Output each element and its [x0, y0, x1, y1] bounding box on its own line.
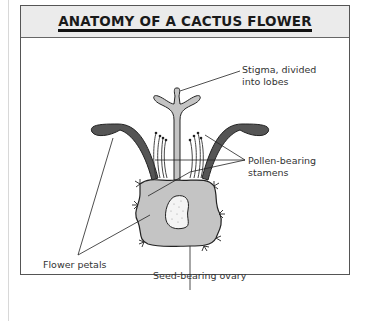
label-stigma: Stigma, divided into lobes	[242, 64, 316, 88]
left-petal	[91, 124, 158, 180]
stigma-style	[154, 88, 201, 180]
label-ovary: Seed-bearing ovary	[153, 270, 246, 282]
label-stamens: Pollen-bearing stamens	[248, 155, 316, 179]
label-petals: Flower petals	[43, 259, 106, 271]
